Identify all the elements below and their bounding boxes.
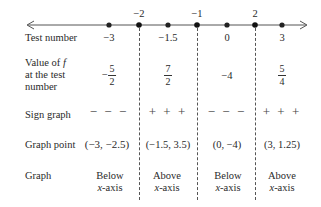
sign-1: − − − <box>90 106 129 118</box>
graph-position-2: Abovex-axis <box>153 170 181 194</box>
row-label-sign-graph: Sign graph <box>25 109 71 121</box>
graph-point-2: (−1.5, 3.5) <box>146 139 190 151</box>
critical-label-2: 2 <box>252 8 257 20</box>
test-number-3: 0 <box>224 32 229 44</box>
test-number-2: −1.5 <box>158 32 177 44</box>
sign-4: + + + <box>263 106 302 118</box>
f-value-1: −52 <box>102 64 116 87</box>
row-label-graph: Graph <box>25 170 51 182</box>
graph-position-1: Belowx-axis <box>96 170 123 194</box>
sign-2: + + + <box>149 106 188 118</box>
graph-point-1: (−3, −2.5) <box>85 138 129 150</box>
divider-neg2 <box>139 28 140 200</box>
test-number-1: −3 <box>103 32 114 44</box>
graph-position-3: Belowx-axis <box>214 170 241 194</box>
row-label-test-number: Test number <box>25 32 77 44</box>
critical-label-neg1: −1 <box>191 8 202 20</box>
row-label-graph-point: Graph point <box>25 139 75 151</box>
sign-3: − − − <box>208 106 247 118</box>
graph-point-3: (0, −4) <box>213 139 242 151</box>
test-number-4: 3 <box>279 32 284 44</box>
f-value-2: 72 <box>164 64 172 87</box>
divider-2 <box>255 28 256 200</box>
graph-point-4: (3, 1.25) <box>264 139 300 151</box>
graph-position-4: Abovex-axis <box>268 170 296 194</box>
f-value-3: −4 <box>221 70 232 82</box>
divider-neg1 <box>197 28 198 200</box>
critical-label-neg2: −2 <box>133 8 144 20</box>
row-label-value-of-f: Value of f at the test number <box>25 57 66 93</box>
f-value-4: 54 <box>278 64 286 87</box>
